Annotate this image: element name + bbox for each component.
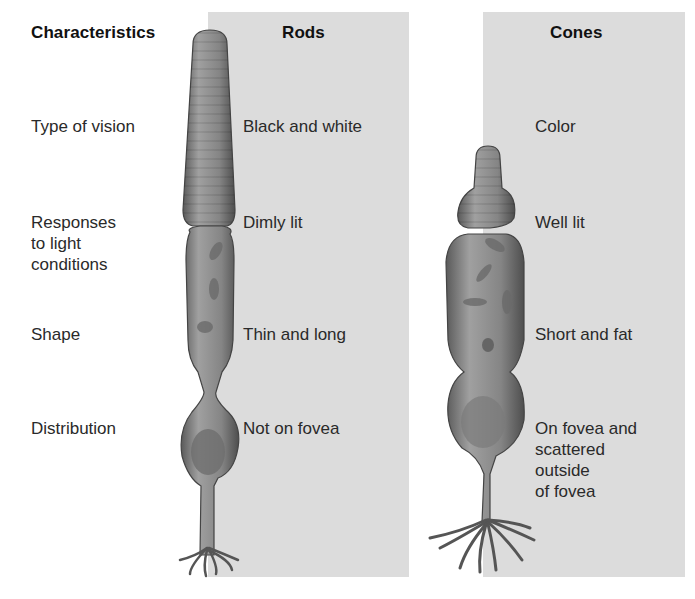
cone-nucleus bbox=[461, 396, 505, 448]
rod-nucleus bbox=[191, 429, 225, 475]
characteristic-label: Responses to light conditions bbox=[31, 212, 116, 275]
rods-value: Not on fovea bbox=[243, 418, 339, 439]
mitochondrion bbox=[502, 290, 512, 314]
rod-synaptic-terminal bbox=[180, 548, 238, 576]
mitochondrion bbox=[482, 338, 494, 352]
rods-value: Dimly lit bbox=[243, 212, 303, 233]
cones-value: Short and fat bbox=[535, 324, 632, 345]
mitochondrion bbox=[209, 278, 219, 300]
rods-value: Thin and long bbox=[243, 324, 346, 345]
rods-value: Black and white bbox=[243, 116, 362, 137]
cones-header: Cones bbox=[550, 23, 602, 43]
cone-cell-illustration bbox=[430, 146, 534, 572]
cones-value: Well lit bbox=[535, 212, 585, 233]
characteristic-label: Shape bbox=[31, 324, 80, 345]
rod-inner-segment bbox=[181, 226, 239, 555]
rod-cell-illustration bbox=[180, 30, 239, 576]
mitochondrion bbox=[463, 298, 487, 306]
characteristic-label: Distribution bbox=[31, 418, 116, 439]
characteristic-label: Type of vision bbox=[31, 116, 135, 137]
cone-synaptic-terminal bbox=[430, 520, 534, 572]
cones-value: On fovea and scattered outside of fovea bbox=[535, 418, 637, 502]
cell-illustrations bbox=[0, 0, 695, 599]
cones-value: Color bbox=[535, 116, 576, 137]
mitochondrion bbox=[197, 321, 213, 333]
characteristics-header: Characteristics bbox=[31, 23, 155, 43]
rods-header: Rods bbox=[282, 23, 325, 43]
